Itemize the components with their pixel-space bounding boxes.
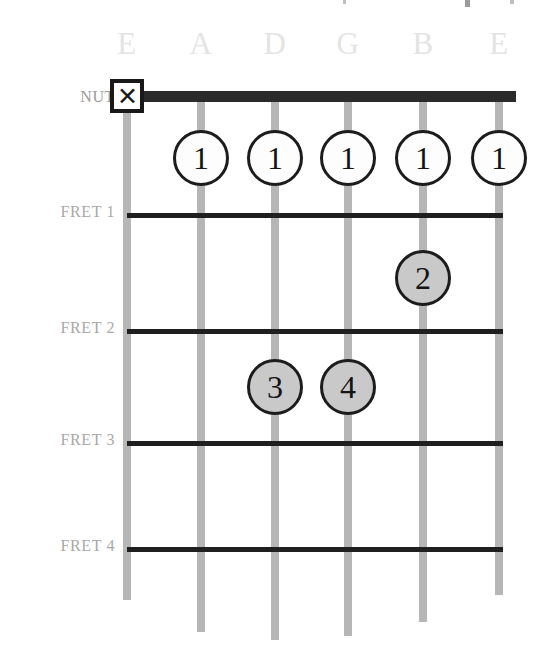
- finger-dot-3-string-d: 3: [247, 359, 303, 415]
- page-bleed-artifact-1: [343, 0, 346, 4]
- fret-label-1: FRET 1: [5, 203, 115, 221]
- finger-dot-1-string-a: 1: [173, 130, 229, 186]
- page-bleed-artifact-2: [465, 0, 470, 7]
- fret-line-fret1: [127, 213, 503, 218]
- string-label-1: A: [171, 24, 231, 64]
- finger-dot-1-string-g: 1: [320, 130, 376, 186]
- finger-dot-1-string-b: 1: [395, 130, 451, 186]
- string-label-2: D: [245, 24, 305, 64]
- fret-line-fret3: [127, 441, 503, 446]
- nut-bar: [112, 91, 516, 102]
- finger-dot-1-string-e: 1: [471, 130, 527, 186]
- fret-label-3: FRET 3: [5, 431, 115, 449]
- finger-dot-2-string-b: 2: [395, 250, 451, 306]
- string-label-3: G: [318, 24, 378, 64]
- mute-marker-icon-e-0: ✕: [110, 79, 144, 113]
- fret-label-2: FRET 2: [5, 319, 115, 337]
- string-label-5: E: [469, 24, 529, 64]
- fret-label-4: FRET 4: [5, 537, 115, 555]
- finger-dot-4-string-g: 4: [320, 359, 376, 415]
- fret-line-fret4: [127, 547, 503, 552]
- string-E-0: [123, 96, 131, 600]
- fret-line-fret2: [127, 329, 503, 334]
- page-bleed-artifact-3: [510, 0, 514, 4]
- string-label-4: B: [393, 24, 453, 64]
- string-label-0: E: [97, 24, 157, 64]
- guitar-chord-diagram: EADGBE NUT FRET 1FRET 2FRET 3FRET 4 ✕ 11…: [0, 0, 548, 658]
- finger-dot-1-string-d: 1: [247, 130, 303, 186]
- nut-label: NUT: [5, 88, 115, 106]
